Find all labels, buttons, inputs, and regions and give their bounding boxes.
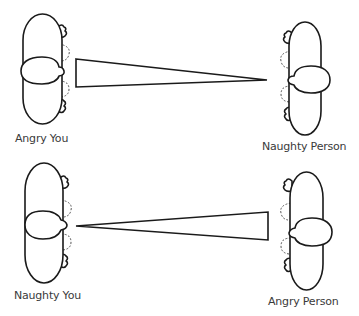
figure-top-left xyxy=(21,14,69,124)
diagram-canvas: Angry You Naughty Person Naughty You Ang… xyxy=(0,0,359,316)
figure-bottom-right xyxy=(281,172,332,290)
label-naughty-you: Naughty You xyxy=(14,289,81,302)
figure-top-right xyxy=(281,22,330,135)
diagram-svg xyxy=(0,0,359,316)
label-naughty-person: Naughty Person xyxy=(262,140,346,153)
label-angry-you: Angry You xyxy=(15,132,68,145)
label-angry-person: Angry Person xyxy=(268,295,339,308)
wedge-top xyxy=(76,59,267,87)
wedge-bottom xyxy=(76,212,268,240)
figure-bottom-left xyxy=(25,163,71,283)
